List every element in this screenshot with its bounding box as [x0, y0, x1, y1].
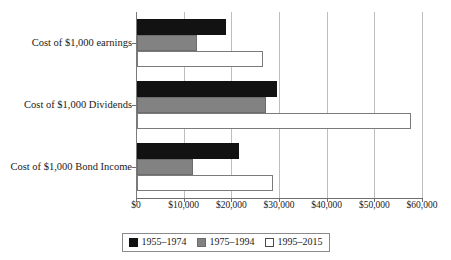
x-axis-tick-label: $10,000: [168, 200, 199, 211]
category-axis-tick-mark: [132, 167, 136, 168]
chart-legend: 1955–1974 1975–1994 1995–2015: [122, 233, 330, 252]
bar-chart: Cost of $1,000 earnings Cost of $1,000 D…: [0, 0, 451, 260]
x-axis-tick-label: $0: [131, 200, 141, 211]
legend-label-1955-1974: 1955–1974: [142, 236, 187, 248]
bar-1995-2015: [137, 113, 411, 129]
bar-1975-1994: [137, 159, 193, 175]
gridline: [374, 12, 375, 198]
legend-label-1975-1994: 1975–1994: [210, 236, 255, 248]
bar-1955-1974: [137, 143, 239, 159]
gridline: [422, 12, 423, 198]
category-label-dividends: Cost of $1,000 Dividends: [24, 99, 132, 111]
legend-item-1975-1994: 1975–1994: [197, 236, 255, 248]
white-square-swatch: [265, 238, 274, 247]
x-axis-tick-label: $20,000: [216, 200, 247, 211]
x-axis-tick-label: $40,000: [311, 200, 342, 211]
legend-item-1995-2015: 1995–2015: [265, 236, 323, 248]
legend-label-1995-2015: 1995–2015: [278, 236, 323, 248]
bar-1995-2015: [137, 175, 273, 191]
category-axis-tick-mark: [132, 105, 136, 106]
category-label-earnings: Cost of $1,000 earnings: [32, 37, 132, 49]
gridline: [279, 12, 280, 198]
category-axis-tick-mark: [132, 43, 136, 44]
gray-square-swatch: [197, 238, 206, 247]
bar-1955-1974: [137, 81, 277, 97]
bar-1975-1994: [137, 97, 266, 113]
bar-1975-1994: [137, 35, 197, 51]
legend-item-1955-1974: 1955–1974: [129, 236, 187, 248]
x-axis-tick-label: $30,000: [264, 200, 295, 211]
x-axis-tick-label: $60,000: [407, 200, 438, 211]
bar-1955-1974: [137, 19, 226, 35]
x-axis-tick-label: $50,000: [359, 200, 390, 211]
category-label-bond-income: Cost of $1,000 Bond Income: [10, 161, 132, 173]
plot-area: [136, 12, 422, 198]
gridline: [327, 12, 328, 198]
black-square-swatch: [129, 238, 138, 247]
bar-1995-2015: [137, 51, 263, 67]
